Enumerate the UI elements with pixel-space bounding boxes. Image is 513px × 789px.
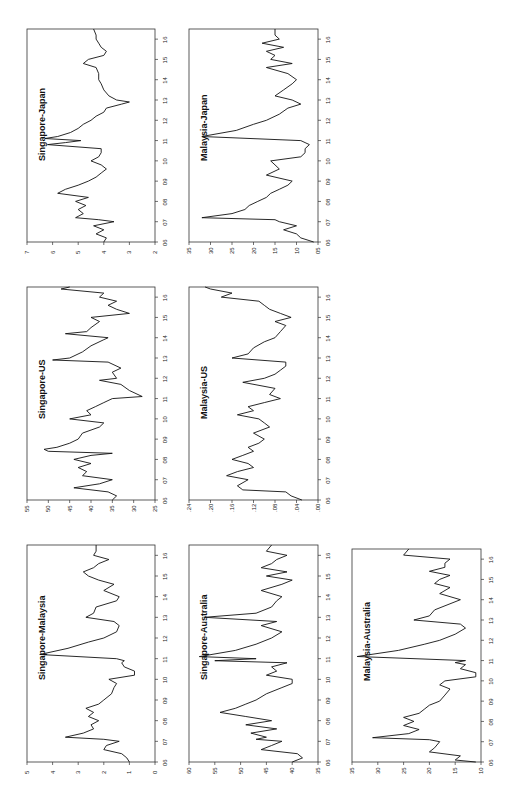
panel-malaysia-japan: 051015202530350607080910111213141516Mala… [189, 29, 318, 242]
value-tick-label: 5 [24, 770, 30, 774]
time-tick-label: 14 [162, 76, 168, 83]
value-tick-label: 30 [131, 505, 137, 512]
time-tick-label: 06 [162, 239, 168, 246]
value-tick-label: 3 [75, 770, 81, 774]
value-tick-label: .16 [229, 503, 235, 512]
time-tick-label: 09 [162, 436, 168, 443]
time-tick-label: 16 [162, 294, 168, 301]
value-tick-label: 10 [478, 767, 484, 774]
time-tick-label: 08 [162, 198, 168, 205]
panel-malaysia-australia: 1015202530350607080910111213141516Malays… [352, 549, 481, 762]
time-tick-label: 15 [488, 576, 494, 583]
time-tick-label: 07 [162, 218, 168, 225]
time-tick-label: 07 [325, 476, 331, 483]
time-tick-label: 12 [325, 117, 331, 124]
value-tick-label: 5 [75, 250, 81, 254]
time-tick-label: 15 [325, 573, 331, 580]
time-tick-label: 12 [325, 375, 331, 382]
time-tick-label: 07 [325, 738, 331, 745]
time-tick-label: 08 [325, 198, 331, 205]
value-tick-label: 35 [349, 767, 355, 774]
time-tick-label: 16 [325, 552, 331, 559]
value-tick-label: .24 [186, 503, 192, 512]
time-tick-label: 16 [162, 552, 168, 559]
panel-title: Malaysia-Australia [362, 602, 372, 681]
time-tick-label: 14 [162, 334, 168, 341]
series-line [205, 287, 302, 500]
time-tick-label: 11 [325, 656, 331, 663]
time-tick-label: 14 [325, 76, 331, 83]
value-tick-label: .20 [208, 503, 214, 512]
time-tick-label: 15 [162, 56, 168, 63]
time-tick-label: 13 [325, 355, 331, 362]
panel-singapore-us: 253035404550550607080910111213141516Sing… [27, 287, 155, 500]
time-tick-label: 11 [325, 396, 331, 403]
time-tick-label: 14 [325, 334, 331, 341]
value-tick-label: 40 [289, 767, 295, 774]
value-tick-label: .00 [315, 503, 321, 512]
time-tick-label: 13 [488, 617, 494, 624]
panel-title: Singapore-Japan [37, 88, 47, 161]
value-tick-label: 25 [229, 247, 235, 254]
time-tick-label: 13 [162, 355, 168, 362]
time-tick-label: 16 [488, 556, 494, 563]
time-tick-label: 07 [162, 738, 168, 745]
value-tick-label: 50 [45, 505, 51, 512]
time-tick-label: 10 [162, 416, 168, 423]
time-tick-label: 15 [325, 314, 331, 321]
value-tick-label: 10 [294, 247, 300, 254]
time-tick-label: 12 [162, 117, 168, 124]
value-tick-label: 20 [251, 247, 257, 254]
panel-title: Singapore-Malaysia [37, 595, 47, 680]
time-tick-label: 10 [325, 676, 331, 683]
value-tick-label: 15 [272, 247, 278, 254]
time-tick-label: 14 [488, 596, 494, 603]
time-tick-label: 11 [488, 658, 494, 665]
time-tick-label: 09 [325, 436, 331, 443]
series-line [357, 549, 476, 762]
time-tick-label: 10 [162, 676, 168, 683]
value-tick-label: 35 [186, 247, 192, 254]
time-tick-label: 09 [325, 697, 331, 704]
value-tick-label: 4 [50, 770, 56, 774]
time-tick-label: 12 [325, 635, 331, 642]
panel-singapore-japan: 2345670607080910111213141516Singapore-Ja… [27, 29, 155, 242]
time-tick-label: 08 [488, 718, 494, 725]
value-tick-label: 1 [126, 770, 132, 774]
time-tick-label: 06 [325, 497, 331, 504]
panel-singapore-malaysia: 0123450607080910111213141516Singapore-Ma… [27, 545, 155, 762]
time-tick-label: 08 [325, 456, 331, 463]
panel-title: Malaysia-Japan [199, 95, 209, 162]
time-tick-label: 09 [325, 178, 331, 185]
time-tick-label: 15 [162, 314, 168, 321]
panel-title: Singapore-Australia [199, 594, 209, 680]
time-tick-label: 12 [162, 375, 168, 382]
time-tick-label: 08 [325, 717, 331, 724]
panel-malaysia-us: .00.04.08.12.16.20.240607080910111213141… [189, 287, 318, 500]
time-tick-label: 12 [162, 635, 168, 642]
value-tick-label: 0 [152, 770, 158, 774]
time-tick-label: 11 [162, 138, 168, 145]
value-tick-label: 60 [186, 767, 192, 774]
series-line [40, 545, 135, 762]
time-tick-label: 16 [325, 294, 331, 301]
value-tick-label: 45 [67, 505, 73, 512]
time-tick-label: 06 [162, 759, 168, 766]
time-tick-label: 09 [162, 697, 168, 704]
panel-title: Malaysia-US [199, 366, 209, 419]
time-tick-label: 06 [488, 759, 494, 766]
time-tick-label: 06 [325, 239, 331, 246]
time-tick-label: 16 [162, 36, 168, 43]
time-tick-label: 15 [325, 56, 331, 63]
panel-title: Singapore-US [37, 360, 47, 420]
value-tick-label: 35 [109, 505, 115, 512]
value-tick-label: 30 [208, 247, 214, 254]
value-tick-label: 35 [315, 767, 321, 774]
time-tick-label: 07 [488, 738, 494, 745]
time-tick-label: 16 [325, 36, 331, 43]
time-tick-label: 15 [162, 573, 168, 580]
value-tick-label: .12 [251, 503, 257, 512]
value-tick-label: 50 [238, 767, 244, 774]
time-tick-label: 10 [162, 158, 168, 165]
time-tick-label: 09 [488, 698, 494, 705]
